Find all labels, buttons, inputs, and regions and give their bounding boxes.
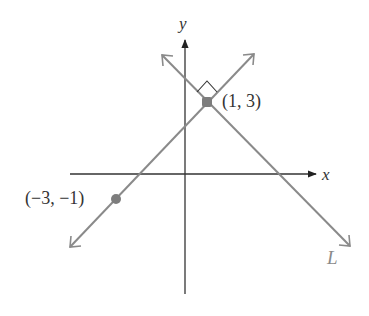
coordinate-diagram: y x (1, 3) (−3, −1) L [0, 0, 369, 316]
line-L-label: L [327, 248, 338, 267]
point-neg3-neg1 [111, 194, 121, 204]
line-through-points [70, 54, 254, 247]
x-axis-label: x [322, 166, 330, 183]
right-angle-marker-icon [197, 81, 217, 92]
point-1-3 [202, 97, 212, 107]
point-label-1-3: (1, 3) [222, 92, 261, 110]
point-label-neg3-neg1: (−3, −1) [25, 189, 84, 207]
line-L [162, 55, 350, 246]
diagram-graphics [0, 0, 369, 316]
y-axis-label: y [179, 15, 187, 32]
